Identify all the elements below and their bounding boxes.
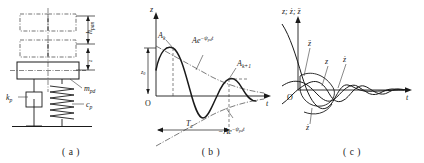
- caption-b: ( b ): [140, 147, 282, 157]
- leader-z: [322, 66, 328, 86]
- y-axis-label-b: z: [149, 5, 154, 14]
- lower-envelope-curve: [156, 99, 264, 146]
- leader-acc-top: [304, 48, 310, 76]
- label-lower-envelope: −Ae−ψpdt: [218, 126, 245, 136]
- velocity-curve: [282, 81, 408, 101]
- origin-label-b: O: [145, 99, 151, 108]
- y-axis-label-c: z; ż; z̈: [281, 7, 302, 16]
- label-period: Tz: [186, 119, 193, 129]
- leader-mass: [70, 79, 82, 88]
- label-mass: mpd: [84, 84, 96, 94]
- upper-envelope-curve: [156, 46, 264, 93]
- label-acceleration: z̈: [307, 39, 312, 48]
- label-Ak1: Ak+1: [236, 59, 251, 69]
- spring-symbol: [50, 79, 74, 126]
- label-stiffness: kp: [6, 93, 13, 103]
- leader-upper-env: [196, 55, 203, 70]
- panel-b: z t O z0 Ak Ak+1 Ae−ψpdt −Ae−ψpdt Tz ( b…: [140, 0, 282, 163]
- leader-zdd-bottom: [310, 108, 312, 124]
- leader-zdot: [338, 64, 346, 88]
- caption-a: ( a ): [0, 147, 142, 157]
- label-z0: z0: [140, 69, 145, 76]
- damper-symbol: [26, 79, 42, 126]
- figure-root: hpan z mpd cp kp ( a ): [0, 0, 424, 163]
- y-axis-arrow-c: [295, 16, 300, 23]
- axes-c: [298, 20, 408, 90]
- origin-label-c: O: [287, 93, 293, 102]
- panel-c-drawing: z; ż; z̈ t O z̈ z ż ż: [280, 0, 424, 163]
- x-axis-label-c: t: [406, 93, 409, 102]
- leader-lower-env: [226, 108, 233, 118]
- y-axis-arrow: [153, 12, 158, 19]
- x-axis-arrow: [264, 93, 271, 98]
- x-axis-label-b: t: [266, 99, 269, 108]
- label-displacement: z: [324, 57, 329, 66]
- leader-Ak1: [229, 68, 236, 79]
- panel-c: z; ż; z̈ t O z̈ z ż ż ( c ): [280, 0, 424, 163]
- panel-a-drawing: hpan z mpd cp kp: [0, 0, 142, 163]
- caption-c: ( c ): [280, 147, 424, 157]
- damped-oscillation-curve: [156, 47, 256, 118]
- z0-dimension: [144, 48, 156, 94]
- panel-a: hpan z mpd cp kp ( a ): [0, 0, 142, 163]
- label-Ak: Ak: [157, 31, 166, 41]
- label-height-pan: hpan: [85, 21, 95, 34]
- label-damping: cp: [86, 100, 93, 110]
- acceleration-curve: [282, 24, 404, 109]
- panel-b-drawing: z t O z0 Ak Ak+1 Ae−ψpdt −Ae−ψpdt Tz: [140, 0, 282, 163]
- label-velocity: ż: [342, 55, 347, 64]
- label-velocity-lower: ż: [305, 123, 310, 132]
- lower-lobe: [304, 104, 332, 114]
- label-upper-envelope: Ae−ψpdt: [191, 35, 214, 45]
